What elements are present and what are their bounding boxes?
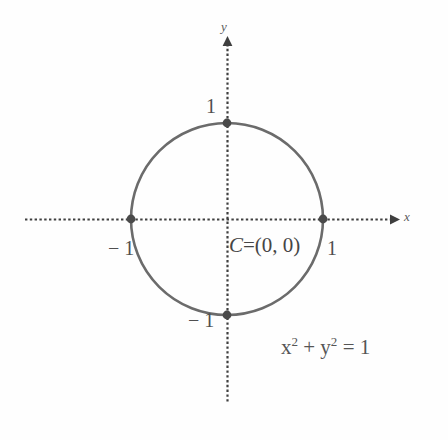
equation-term-x: x [281,335,292,359]
center-annotation: C=(0, 0) [229,235,300,256]
plot-canvas [0,0,448,440]
point-marker-left [127,215,136,224]
tick-label-left-minus-one: − 1 [108,238,134,258]
y-axis-arrowhead [223,36,233,46]
tick-label-bottom-minus-one: − 1 [188,310,214,330]
x-axis-label: x [404,210,410,223]
equation-right-hand-side: = 1 [337,335,370,359]
point-marker-bottom [223,311,232,320]
tick-label-right-one: 1 [327,238,337,258]
x-axis-arrowhead [390,215,400,225]
equation-operator-plus: + [298,335,320,359]
y-axis-label: y [221,20,227,33]
center-variable-c: C [229,233,243,257]
center-coordinates: =(0, 0) [243,233,300,257]
tick-label-top-one: 1 [206,96,216,116]
circle-equation: x2 + y2 = 1 [281,337,370,358]
point-marker-top [223,119,232,128]
point-marker-right [319,215,328,224]
equation-term-y: y [320,335,331,359]
unit-circle-figure: y x 1 − 1 1 − 1 C=(0, 0) x2 + y2 = 1 [0,0,448,440]
